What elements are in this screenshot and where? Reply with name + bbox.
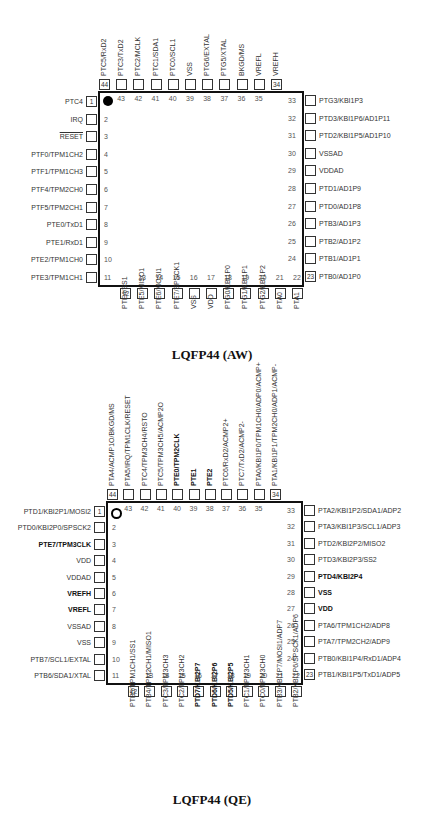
- pin-pad: [86, 254, 97, 265]
- pin-number: 7: [112, 606, 116, 613]
- pin-pad: [86, 237, 97, 248]
- pin-pad: [304, 521, 315, 532]
- pin-label: PTA4/ACMP1O/BKGD/MS: [108, 403, 115, 486]
- pin-number: 36: [238, 95, 246, 102]
- pin-label: VREFL: [68, 606, 91, 613]
- pin-label: PTF5/TPM2CH1: [31, 204, 83, 211]
- pin-label: PTC3/TxD2: [117, 39, 124, 76]
- pin-label: PTE0/TPM2CLK: [173, 433, 180, 486]
- pin-label: PTB6/SDA1/XTAL: [34, 672, 91, 679]
- pin-pad: [305, 183, 316, 194]
- pin-label: VDD: [207, 294, 214, 309]
- pin-label: VSS: [186, 62, 193, 76]
- pin-pad: [168, 79, 179, 90]
- pin-label: VREFH: [67, 590, 91, 597]
- pin-pad: [86, 202, 97, 213]
- pin-pad: [86, 166, 97, 177]
- pin-pad: [221, 489, 232, 500]
- pin-label: PTB0/AD1P0: [319, 273, 361, 280]
- pin-number: 35: [255, 505, 263, 512]
- pin-pad: [205, 489, 216, 500]
- pin-pad: [86, 149, 97, 160]
- pin-number: 39: [190, 505, 198, 512]
- pin-label: PTE2: [206, 468, 213, 486]
- pin-number: 30: [287, 556, 295, 563]
- pin-number: 38: [206, 505, 214, 512]
- pin-pad: [123, 489, 134, 500]
- pin-pad: [86, 219, 97, 230]
- pin-label: BKGD/MS: [238, 44, 245, 76]
- pin-label: PTB1/AD1P1: [319, 255, 361, 262]
- pin-pad: [304, 620, 315, 631]
- pin-pad: [305, 130, 316, 141]
- pin-number: 36: [238, 505, 246, 512]
- pin-label: PTE4/SS1: [121, 276, 128, 309]
- pin-pad: [140, 489, 151, 500]
- pin-pad: [94, 637, 105, 648]
- pin-number: 43: [124, 505, 132, 512]
- pin-pad: [304, 505, 315, 516]
- pin-label: PTE0/TxD1: [47, 221, 83, 228]
- pin-label: PTE7/SPSCK1: [173, 262, 180, 309]
- pin-number: 9: [104, 239, 108, 246]
- pin-number: 31: [287, 540, 295, 547]
- pin-pad: [254, 79, 265, 90]
- pin-pad: [86, 131, 97, 142]
- pin-label: PTC4: [65, 98, 83, 105]
- pin-number: 11: [112, 672, 119, 679]
- pin-label: PTC3/TPM3CH3: [162, 654, 169, 707]
- pin-label: PTD5/KBI2P5: [227, 663, 234, 707]
- pin-label: PTA0/KBI1P0/TPM1CH0/ADP0/ACMP+: [255, 362, 262, 486]
- pin-label: PTD1/KBI2P1/MOSI2: [24, 508, 91, 515]
- pin-label: PTC2/TPM3CH2: [178, 654, 185, 707]
- pin-label: PTA1: [293, 292, 300, 309]
- pin-label: PTG0/KBI1P0: [224, 265, 231, 309]
- pin-pad: [94, 539, 105, 550]
- pin-number: 28: [287, 589, 295, 596]
- pin-number: 6: [112, 590, 116, 597]
- pin-number: 37: [222, 505, 230, 512]
- pin-pad: 23: [304, 669, 315, 680]
- pin-label: PTB2/AD1P2: [319, 238, 361, 245]
- pin-label: PTE7/TPM3CLK: [38, 541, 91, 548]
- pin-label: VDD: [318, 605, 333, 612]
- pin-label: PTB4/TPM2CH1/MISO1: [145, 631, 152, 707]
- pin-label: PTG1/KBI1P1: [241, 265, 248, 309]
- pin-label: PTC0/SCL1: [169, 39, 176, 76]
- pin-pad: 44: [99, 79, 110, 90]
- pin-number: 25: [288, 238, 296, 245]
- pin-number: 41: [152, 95, 160, 102]
- pin1-marker-dot-icon: [103, 96, 113, 106]
- pin-label: PTD3/KBI2P3/SS2: [318, 556, 377, 563]
- pin-pad: [94, 572, 105, 583]
- pin-pad: [305, 218, 316, 229]
- pin-number: 11: [104, 274, 111, 281]
- pin-number: 32: [288, 115, 296, 122]
- pin-label: PTC4/TPM3CH4/RSTO: [141, 412, 148, 486]
- pin-pad: [94, 670, 105, 681]
- pin-label: PTE6/MOSI1: [155, 268, 162, 309]
- pin-label: PTA3/KBI1P3/SCL1/ADP3: [318, 523, 400, 530]
- pin-number: 39: [186, 95, 194, 102]
- pin-pad: [254, 489, 265, 500]
- pin-pad: [305, 95, 316, 106]
- pin-pad: [305, 113, 316, 124]
- pin-label: PTD2/KBI1P5/AD1P10: [319, 132, 391, 139]
- pin-number: 21: [276, 274, 284, 281]
- pin-label: PTA6/TPM1CH2/ADP8: [318, 622, 390, 629]
- pin-number: 4: [104, 151, 108, 158]
- pin1-marker-ring-icon: [111, 508, 122, 519]
- pin-label: PTA2/KBI1P2/SDA1/ADP2: [318, 507, 401, 514]
- pin-pad: 1: [86, 96, 97, 107]
- pin-number: 22: [293, 274, 301, 281]
- pin-label: PTD4/KBI2P4: [318, 573, 362, 580]
- pin-pad: [94, 588, 105, 599]
- pin-label: VSS: [190, 295, 197, 309]
- pin-label: PTC5/TPM3CH5/ACMP2O: [157, 402, 164, 486]
- pin-label: VDDAD: [319, 167, 344, 174]
- pin-pad: 34: [271, 79, 282, 90]
- pin-label: PTF1/TPM1CH3: [31, 168, 83, 175]
- pin-label: PTD1/AD1P9: [319, 185, 361, 192]
- pin-pad: [304, 636, 315, 647]
- pin-pad: 34: [270, 489, 281, 500]
